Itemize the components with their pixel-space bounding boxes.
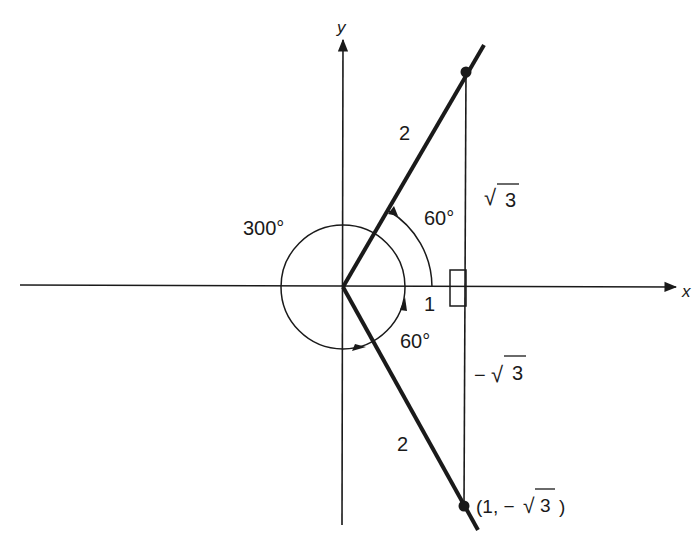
label-60-lower: 60° <box>400 330 430 352</box>
svg-text:): ) <box>559 496 565 517</box>
right-angle-marker <box>450 270 466 306</box>
point-lower <box>459 501 470 512</box>
label-hyp-lower: 2 <box>397 433 408 455</box>
svg-text:√: √ <box>491 362 504 387</box>
label-neg-sqrt3-lower: − √ 3 <box>474 356 526 387</box>
svg-text:(1, −: (1, − <box>476 496 515 517</box>
point-label-lower: (1, − √ 3 ) <box>476 489 565 517</box>
label-60-upper: 60° <box>424 207 454 229</box>
svg-text:3: 3 <box>512 362 523 384</box>
svg-text:√: √ <box>523 494 535 517</box>
label-sqrt3-upper: √ 3 <box>484 184 519 211</box>
terminal-side-60 <box>343 45 484 287</box>
svg-text:3: 3 <box>505 189 516 211</box>
x-axis-label: x <box>681 282 691 301</box>
trig-diagram: x y 300° 60° 60° 2 2 1 √ 3 − √ 3 (1, − √… <box>0 0 698 543</box>
label-hyp-upper: 2 <box>399 122 410 144</box>
y-axis <box>342 40 343 525</box>
terminal-side-300 <box>343 287 478 530</box>
svg-text:√: √ <box>484 185 497 210</box>
point-upper <box>461 67 472 78</box>
label-adjacent-1: 1 <box>424 293 435 315</box>
svg-text:3: 3 <box>540 495 551 516</box>
svg-text:−: − <box>474 364 486 386</box>
x-axis <box>20 285 676 287</box>
label-300-degrees: 300° <box>243 217 284 239</box>
y-axis-label: y <box>336 18 347 37</box>
